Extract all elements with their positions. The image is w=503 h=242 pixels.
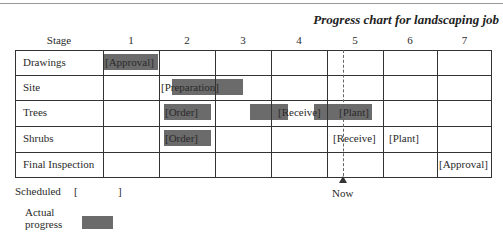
tag-trees-receive: [Receive] [278, 106, 321, 118]
grid-line [437, 50, 438, 178]
grid-line [15, 126, 492, 127]
row-label-final-inspection: Final Inspection [23, 158, 94, 170]
grid-line [159, 50, 160, 178]
legend-scheduled-label: Scheduled [15, 185, 61, 197]
legend-scheduled-open-bracket: [ [74, 185, 78, 197]
grid-line [215, 50, 216, 178]
stage-header-label: Stage [15, 34, 103, 46]
tag-trees-order: [Order] [165, 106, 198, 118]
legend-actual-label-line2: progress [25, 218, 62, 230]
stage-header-5: 5 [327, 34, 383, 46]
grid-line [383, 50, 384, 178]
row-label-trees: Trees [23, 106, 47, 118]
stage-header-2: 2 [159, 34, 215, 46]
grid-line [491, 50, 492, 178]
grid-line [15, 177, 492, 178]
grid-line [103, 50, 104, 178]
grid-line [15, 50, 16, 178]
chart-title: Progress chart for landscaping job [313, 12, 499, 28]
stage-header-1: 1 [103, 34, 159, 46]
grid-line [15, 50, 492, 51]
top-rule [0, 3, 503, 4]
stage-header-3: 3 [215, 34, 271, 46]
grid-line [15, 152, 492, 153]
tag-final-approval: [Approval] [439, 158, 488, 170]
grid-line [271, 50, 272, 178]
row-label-site: Site [23, 81, 40, 93]
stage-header-7: 7 [437, 34, 492, 46]
legend-actual-label-line1: Actual [25, 206, 62, 218]
legend-scheduled-close-bracket: ] [118, 185, 122, 197]
now-arrow-icon [339, 176, 347, 183]
row-label-shrubs: Shrubs [23, 132, 54, 144]
now-line [343, 50, 344, 176]
row-label-drawings: Drawings [23, 56, 66, 68]
legend-actual-label: Actual progress [25, 206, 62, 230]
tag-shrubs-plant: [Plant] [389, 132, 419, 144]
stage-header-4: 4 [271, 34, 327, 46]
tag-drawings-approval: [Approval] [105, 56, 154, 68]
now-label: Now [332, 187, 353, 199]
stage-header-6: 6 [383, 34, 437, 46]
tag-shrubs-receive: [Receive] [333, 132, 376, 144]
legend-actual-swatch [82, 216, 113, 229]
tag-shrubs-order: [Order] [165, 132, 198, 144]
grid-line [15, 100, 492, 101]
grid-line [327, 50, 328, 178]
grid-line [15, 75, 492, 76]
tag-site-preparation: [Preparation] [161, 81, 219, 93]
